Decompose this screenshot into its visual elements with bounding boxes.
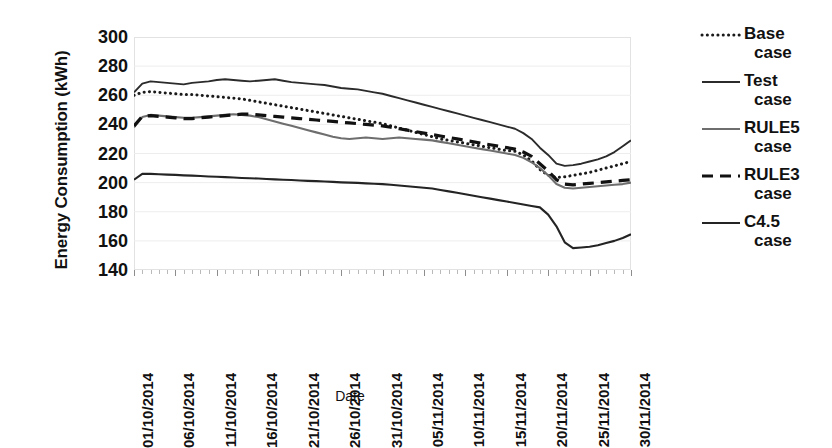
x-axis-tick-label: 20/11/2014 — [554, 373, 569, 447]
legend-item-label: RULE5case — [744, 118, 800, 156]
x-axis-minor-tick — [432, 270, 433, 274]
legend-line-sample-icon — [700, 212, 742, 232]
x-axis-major-tick — [631, 270, 632, 276]
y-axis-tick-label: 220 — [64, 145, 128, 163]
x-axis-minor-tick — [200, 270, 201, 274]
x-axis-major-tick — [300, 270, 301, 276]
series-line — [134, 79, 631, 166]
x-axis-minor-tick — [209, 270, 210, 274]
x-axis-tick-labels: 01/10/201406/10/201411/10/201416/10/2014… — [134, 277, 631, 382]
x-axis-minor-tick — [267, 270, 268, 274]
x-axis-minor-tick — [623, 270, 624, 274]
y-axis-tick-label: 200 — [64, 174, 128, 192]
x-axis-minor-tick — [225, 270, 226, 274]
x-axis-tick-label: 05/11/2014 — [430, 373, 445, 447]
x-axis-minor-tick — [457, 270, 458, 274]
x-axis-minor-tick — [474, 270, 475, 274]
x-axis-minor-tick — [556, 270, 557, 274]
x-axis-tick-label: 15/11/2014 — [513, 373, 528, 447]
x-axis-minor-tick — [250, 270, 251, 274]
x-axis-major-tick — [175, 270, 176, 276]
x-axis-minor-tick — [540, 270, 541, 274]
y-axis-tick-label: 160 — [64, 232, 128, 250]
y-axis-tick-label: 180 — [64, 203, 128, 221]
x-axis-minor-tick — [159, 270, 160, 274]
x-axis-major-tick — [383, 270, 384, 276]
x-axis-tick-label: 26/10/2014 — [347, 373, 362, 448]
x-axis-minor-tick — [308, 270, 309, 274]
legend-item-label: RULE3case — [744, 165, 800, 203]
legend-label-line2: case — [754, 184, 800, 203]
legend-label-line2: case — [754, 231, 792, 250]
x-axis-minor-tick — [366, 270, 367, 274]
x-axis-major-tick — [548, 270, 549, 276]
x-axis-tick-label: 10/11/2014 — [471, 373, 486, 447]
y-axis-tick-label: 260 — [64, 86, 128, 104]
x-axis-minor-tick — [482, 270, 483, 274]
y-axis-tick-labels: 300280260240220200180160140 — [64, 28, 128, 278]
y-axis-tick-label: 300 — [64, 28, 128, 46]
legend-item-label: Basecase — [744, 24, 792, 62]
plot-area — [134, 37, 631, 270]
x-axis-minor-tick — [614, 270, 615, 274]
x-axis-minor-tick — [333, 270, 334, 274]
legend-item[interactable]: C4.5case — [700, 212, 832, 250]
x-axis-minor-tick — [275, 270, 276, 274]
legend-line-sample-icon — [700, 24, 742, 44]
legend-item-label: C4.5case — [744, 212, 792, 250]
y-axis-tick-label: 240 — [64, 115, 128, 133]
legend-label-line2: case — [754, 43, 792, 62]
x-axis-minor-tick — [606, 270, 607, 274]
x-axis-major-tick — [424, 270, 425, 276]
x-axis-minor-tick — [358, 270, 359, 274]
x-axis-minor-tick — [142, 270, 143, 274]
legend-item[interactable]: RULE5case — [700, 118, 832, 156]
x-axis-tick-label: 30/11/2014 — [637, 373, 652, 447]
x-axis-major-tick — [258, 270, 259, 276]
x-axis-minor-tick — [283, 270, 284, 274]
x-axis-minor-tick — [523, 270, 524, 274]
x-axis-minor-tick — [391, 270, 392, 274]
legend-label-line1: Test — [744, 71, 792, 90]
x-axis-minor-tick — [598, 270, 599, 274]
x-axis-minor-tick — [325, 270, 326, 274]
legend-label-line1: C4.5 — [744, 212, 792, 231]
x-axis-minor-tick — [416, 270, 417, 274]
legend-item[interactable]: Testcase — [700, 71, 832, 109]
x-axis-title: Date — [0, 388, 700, 404]
chart-legend: BasecaseTestcaseRULE5caseRULE3caseC4.5ca… — [700, 24, 832, 259]
x-axis-tick-label: 21/10/2014 — [306, 373, 321, 448]
x-axis-minor-tick — [399, 270, 400, 274]
legend-label-line1: RULE5 — [744, 118, 800, 137]
x-axis-tick-label: 11/10/2014 — [223, 373, 238, 447]
x-axis-minor-tick — [490, 270, 491, 274]
legend-item[interactable]: RULE3case — [700, 165, 832, 203]
x-axis-minor-tick — [192, 270, 193, 274]
x-axis-minor-tick — [407, 270, 408, 274]
x-axis-major-tick — [507, 270, 508, 276]
x-axis-minor-tick — [242, 270, 243, 274]
x-axis-minor-tick — [233, 270, 234, 274]
x-axis-minor-tick — [565, 270, 566, 274]
x-axis-minor-tick — [449, 270, 450, 274]
x-axis-major-tick — [465, 270, 466, 276]
x-axis-tick-label: 16/10/2014 — [264, 373, 279, 448]
plot-series-svg — [134, 37, 631, 270]
x-axis-minor-tick — [291, 270, 292, 274]
legend-label-line2: case — [754, 137, 800, 156]
x-axis-major-tick — [134, 270, 135, 276]
x-axis-tick-label: 01/10/2014 — [140, 373, 155, 448]
x-axis-minor-tick — [573, 270, 574, 274]
legend-line-sample-icon — [700, 165, 742, 185]
x-axis-minor-tick — [167, 270, 168, 274]
legend-item-label: Testcase — [744, 71, 792, 109]
x-axis-minor-tick — [374, 270, 375, 274]
x-axis-minor-tick — [581, 270, 582, 274]
legend-label-line1: Base — [744, 24, 792, 43]
y-axis-tick-label: 280 — [64, 57, 128, 75]
x-axis-minor-tick — [498, 270, 499, 274]
x-axis-tick-label: 06/10/2014 — [181, 373, 196, 448]
x-axis-tick-label: 31/10/2014 — [389, 373, 404, 448]
legend-item[interactable]: Basecase — [700, 24, 832, 62]
